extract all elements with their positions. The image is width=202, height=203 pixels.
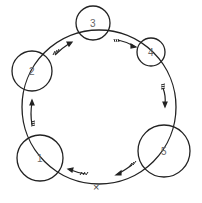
- node-label: 5: [161, 146, 167, 157]
- node-label: 4: [148, 47, 154, 58]
- node-label: 1: [37, 153, 43, 164]
- node-label: 2: [29, 66, 35, 77]
- cycle-diagram: 12345 ×: [0, 0, 202, 203]
- node-label: 3: [90, 18, 96, 29]
- flow-arrows: [30, 39, 167, 175]
- start-mark: ×: [93, 181, 99, 193]
- diagram-canvas: 12345 ×: [0, 0, 202, 203]
